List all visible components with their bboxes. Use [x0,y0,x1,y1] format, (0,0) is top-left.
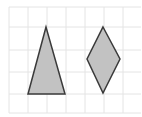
grid-lines [9,7,141,113]
isosceles-triangle [28,27,65,94]
shapes-layer [28,27,120,94]
grid-diagram [0,0,142,117]
grid-figure [0,0,142,117]
rhombus [87,27,120,93]
